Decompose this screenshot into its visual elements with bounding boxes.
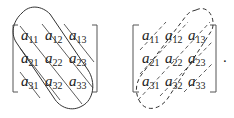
entry-a33: a33 bbox=[188, 73, 206, 91]
entry-a12: a12 bbox=[45, 27, 63, 45]
entry-a12: a12 bbox=[165, 27, 183, 45]
left-entries: a11 a12 a13 a21 a22 a23 a31 a32 a33 bbox=[21, 27, 87, 91]
entry-a11: a11 bbox=[21, 27, 38, 45]
entry-a23: a23 bbox=[69, 50, 87, 68]
entry-a21: a21 bbox=[142, 50, 160, 68]
entry-a23: a23 bbox=[188, 50, 206, 68]
entry-a13: a13 bbox=[69, 27, 87, 45]
entry-a21: a21 bbox=[21, 50, 39, 68]
entry-a33: a33 bbox=[69, 73, 87, 91]
right-bracket bbox=[210, 25, 216, 92]
entry-a31: a31 bbox=[21, 73, 39, 91]
entry-a22: a22 bbox=[45, 50, 63, 68]
right-matrix: a11 a12 a13 a21 a22 a23 a31 a32 a33 bbox=[133, 9, 216, 109]
entry-a11: a11 bbox=[142, 27, 159, 45]
entry-a31: a31 bbox=[142, 73, 160, 91]
entry-a13: a13 bbox=[188, 27, 206, 45]
left-matrix: a11 a12 a13 a21 a22 a23 a31 a32 a33 bbox=[13, 7, 97, 109]
right-entries: a11 a12 a13 a21 a22 a23 a31 a32 a33 bbox=[142, 27, 206, 91]
trailing-period: . bbox=[223, 49, 227, 65]
entry-a22: a22 bbox=[165, 50, 183, 68]
figure: a11 a12 a13 a21 a22 a23 a31 a32 a33 a11 … bbox=[0, 0, 234, 118]
